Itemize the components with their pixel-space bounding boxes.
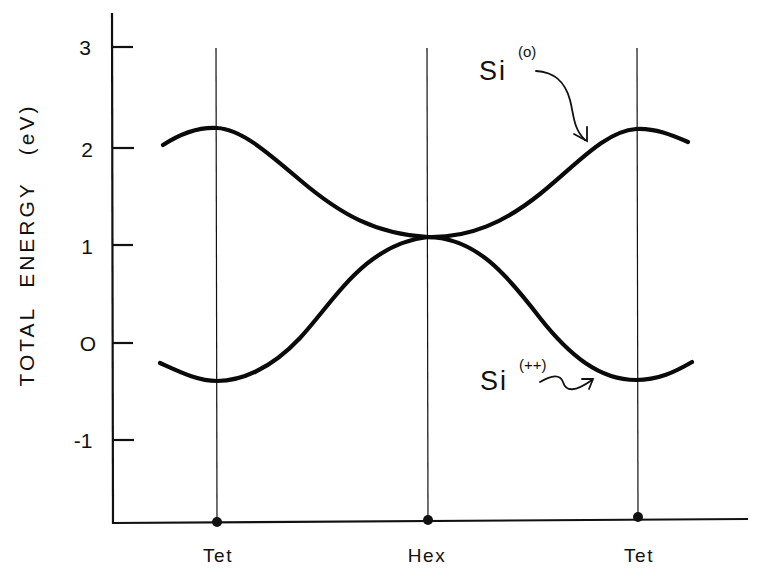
curve-si-doubly-charged bbox=[160, 237, 692, 381]
svg-text:Si: Si bbox=[479, 56, 507, 86]
gridline-tet-left bbox=[216, 48, 217, 520]
y-ticks bbox=[112, 47, 134, 440]
y-tick-labels: 3 2 1 O -1 bbox=[74, 36, 97, 452]
y-axis-label: TOTALENERGY(eV) bbox=[15, 103, 38, 386]
marker-tet-left bbox=[212, 517, 222, 527]
marker-tet-right bbox=[633, 512, 643, 522]
arrow-icon bbox=[536, 71, 585, 140]
svg-text:3: 3 bbox=[79, 36, 91, 59]
svg-text:Tet: Tet bbox=[624, 545, 654, 566]
y-axis bbox=[112, 13, 113, 524]
curve-si-neutral bbox=[163, 128, 688, 237]
svg-text:(++): (++) bbox=[519, 356, 547, 373]
svg-text:Tet: Tet bbox=[203, 545, 233, 566]
svg-text:-1: -1 bbox=[74, 429, 93, 452]
annotation-si-doubly-charged: Si (++) bbox=[480, 356, 593, 396]
svg-text:2: 2 bbox=[81, 138, 93, 161]
gridline-hex bbox=[427, 48, 428, 519]
x-tick-labels: Tet Hex Tet bbox=[203, 545, 654, 566]
gridline-tet-right bbox=[637, 48, 638, 517]
energy-chart: TOTALENERGY(eV) 3 2 1 O -1 Tet Hex Tet S… bbox=[0, 0, 758, 586]
svg-text:O: O bbox=[80, 332, 96, 355]
marker-hex bbox=[423, 515, 433, 525]
svg-text:1: 1 bbox=[81, 235, 93, 258]
annotation-si-neutral: Si (o) bbox=[479, 43, 587, 141]
svg-text:Hex: Hex bbox=[408, 545, 446, 566]
svg-text:(o): (o) bbox=[518, 43, 536, 60]
svg-text:Si: Si bbox=[480, 366, 508, 396]
